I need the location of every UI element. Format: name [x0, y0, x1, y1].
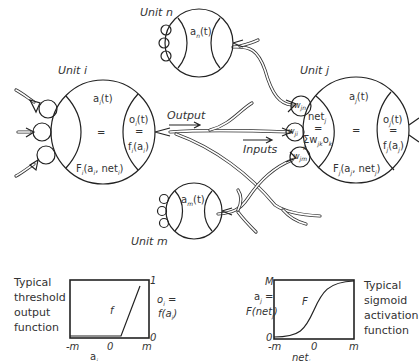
- output-label: Output: [167, 109, 206, 122]
- svg-text:fj(aj): fj(aj): [383, 140, 404, 154]
- svg-text:0: 0: [311, 341, 317, 352]
- svg-text:oi =: oi =: [157, 294, 176, 307]
- unit-m-label: Unit m: [131, 235, 168, 248]
- unit-j-label: Unit j: [300, 64, 330, 77]
- threshold-desc-2: threshold: [14, 291, 66, 304]
- svg-text:Fj(aj, netj): Fj(aj, netj): [333, 163, 381, 177]
- unit-j-equals: =: [352, 125, 360, 136]
- unit-i-output: oi(t) = fi(ai): [128, 114, 149, 154]
- svg-text:M: M: [265, 276, 274, 287]
- sigmoid-desc-4: function: [364, 324, 409, 337]
- unit-i-label: Unit i: [58, 64, 87, 77]
- sigmoid-desc-2: sigmoid: [364, 294, 407, 307]
- threshold-desc-1: Typical: [13, 276, 51, 289]
- unit-m-activation: am(t): [181, 194, 205, 207]
- sigmoid-desc-3: activation: [364, 309, 419, 322]
- unit-i: Unit i ai(t) = oi(t) = fi(ai) Fi(ai, net…: [26, 64, 170, 184]
- svg-text:fi(ai): fi(ai): [128, 141, 149, 154]
- svg-text:=: =: [135, 126, 143, 137]
- threshold-desc-4: function: [14, 321, 59, 334]
- svg-text:wjm: wjm: [293, 152, 307, 163]
- unit-j: Unit j wjn wji wjm netj = Σwjkok k aj(t): [282, 64, 419, 183]
- inputs-arrow: Inputs: [243, 137, 277, 156]
- sigmoid-activation-plot: F M 0 aj = F(netj) -m 0 m netj Typical s…: [246, 276, 419, 361]
- svg-text:=: =: [389, 125, 397, 136]
- unit-m: am(t) Unit m: [131, 183, 232, 248]
- neural-unit-diagram: Unit i ai(t) = oi(t) = fi(ai) Fi(ai, net…: [0, 0, 419, 361]
- svg-text:F(netj): F(netj): [246, 306, 278, 320]
- svg-text:-m: -m: [268, 341, 282, 352]
- svg-text:wjn: wjn: [294, 101, 306, 112]
- threshold-output-plot: Typical threshold output function f 1 0 …: [13, 275, 177, 361]
- svg-text:=: =: [314, 123, 322, 134]
- svg-text:Σwjkok: Σwjkok: [303, 134, 333, 148]
- svg-text:ai: ai: [90, 351, 98, 361]
- output-arrow: Output: [167, 109, 206, 128]
- svg-text:1: 1: [150, 275, 156, 286]
- unit-i-equals: =: [97, 127, 105, 138]
- unit-i-activation-fn: Fi(ai, neti): [76, 163, 124, 176]
- svg-text:wji: wji: [288, 127, 298, 138]
- threshold-desc-3: output: [14, 306, 51, 319]
- svg-text:Fi(ai, neti): Fi(ai, neti): [76, 163, 124, 176]
- svg-text:ai(t): ai(t): [93, 93, 113, 106]
- unit-n-activation: an(t): [190, 26, 212, 39]
- sigmoid-desc-1: Typical: [363, 279, 401, 292]
- unit-n: Unit n an(t): [140, 6, 243, 77]
- unit-i-activation: ai(t): [93, 93, 113, 106]
- svg-text:m: m: [349, 341, 359, 352]
- svg-text:-m: -m: [66, 341, 80, 352]
- svg-text:0: 0: [107, 341, 113, 352]
- unit-n-label: Unit n: [140, 6, 173, 19]
- svg-text:m: m: [142, 341, 152, 352]
- inputs-label: Inputs: [243, 143, 277, 156]
- sigmoid-curve-label: F: [302, 296, 308, 307]
- unit-j-net-input: netj = Σwjkok k: [303, 111, 333, 151]
- svg-text:netj: netj: [292, 352, 310, 361]
- unit-j-activation-fn: Fj(aj, netj): [333, 163, 381, 177]
- unit-j-activation: aj(t): [349, 91, 369, 105]
- svg-text:k: k: [303, 144, 307, 151]
- unit-j-output: oj(t) = fj(aj): [383, 114, 404, 154]
- svg-text:aj =: aj =: [254, 291, 273, 305]
- svg-text:f(ai): f(ai): [158, 308, 177, 321]
